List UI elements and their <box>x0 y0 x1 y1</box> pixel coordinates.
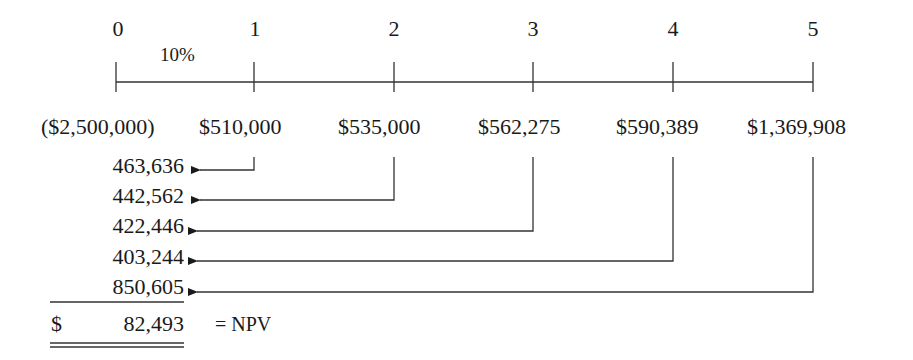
discount-arrow-3 <box>197 157 533 231</box>
discount-arrow-1 <box>200 157 254 170</box>
discount-arrow-5 <box>197 157 813 292</box>
timeline-and-arrows-graphic <box>0 0 913 360</box>
discount-arrow-2 <box>200 157 394 200</box>
discount-arrow-4 <box>197 157 673 261</box>
